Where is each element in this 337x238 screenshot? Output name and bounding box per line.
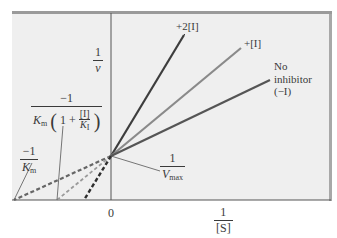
y-axis-label: 1 v bbox=[93, 46, 103, 74]
label-plus-2I: +2[I] bbox=[176, 20, 199, 33]
origin-label: 0 bbox=[108, 207, 114, 219]
x-intercept-uninhibited-label: −1 Km bbox=[20, 145, 38, 175]
inhibitor-ratio: [I] KI bbox=[79, 109, 91, 133]
y-intercept-label: 1 Vmax bbox=[160, 152, 185, 182]
x-label-denominator: [S] bbox=[214, 220, 233, 235]
vmax-sub: max bbox=[169, 173, 183, 182]
label-plus-I: +[I] bbox=[244, 37, 261, 50]
ki: KI bbox=[79, 119, 90, 132]
vmax-denominator: Vmax bbox=[160, 166, 185, 182]
y-label-denominator: v bbox=[93, 60, 102, 75]
kmapp-denominator: Km ( 1 + [I] KI ) bbox=[31, 106, 102, 133]
frame-right-edge bbox=[329, 12, 332, 201]
no-inhibitor-line1: No bbox=[274, 60, 312, 73]
inhibitor-conc: [I] bbox=[79, 109, 91, 120]
km-numerator: −1 bbox=[21, 145, 38, 159]
x-axis-label: 1 [S] bbox=[214, 206, 233, 234]
no-inhibitor-line2: inhibitor bbox=[274, 73, 312, 86]
no-inhibitor-line3: (−I) bbox=[274, 85, 312, 98]
kmapp-sub: m bbox=[41, 118, 47, 127]
kmapp-numerator: −1 bbox=[58, 92, 75, 106]
ki-sub: I bbox=[87, 123, 90, 132]
ki-K: K bbox=[80, 119, 87, 130]
paren-open: ( bbox=[50, 109, 57, 131]
km-denominator: Km bbox=[20, 159, 38, 175]
y-label-numerator: 1 bbox=[93, 46, 103, 60]
x-label-numerator: 1 bbox=[218, 206, 228, 220]
leader-plus-2I bbox=[184, 34, 185, 35]
km-sub: m bbox=[30, 166, 36, 175]
frame-top-edge bbox=[12, 11, 332, 14]
label-no-inhibitor: No inhibitor (−I) bbox=[274, 60, 312, 98]
kmapp-K: K bbox=[33, 112, 41, 126]
x-intercept-inhibited-label: −1 Km ( 1 + [I] KI ) bbox=[31, 92, 102, 132]
one-plus: 1 + bbox=[60, 112, 76, 126]
vmax-numerator: 1 bbox=[168, 152, 178, 166]
paren-close: ) bbox=[94, 109, 101, 131]
km-K: K bbox=[22, 160, 30, 174]
